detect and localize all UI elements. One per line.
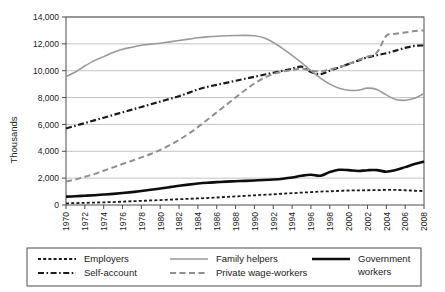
legend-item-label[interactable]: Government (358, 253, 411, 264)
legend-item-label[interactable]: Self-account (84, 267, 137, 278)
y-axis-title: Thousands (8, 116, 19, 163)
x-tick-label: 1980 (156, 212, 166, 231)
legend: EmployersSelf-accountFamily helpersPriva… (38, 253, 411, 278)
x-tick-label: 1984 (193, 212, 203, 231)
x-tick-label: 1978 (137, 212, 147, 231)
chart-container: Thousands 02,0004,0006,0008,00010,00012,… (0, 0, 445, 292)
y-tick-label: 10,000 (33, 66, 59, 76)
y-tick-label: 0 (54, 200, 59, 210)
y-axis-title-text: Thousands (8, 116, 19, 163)
y-tick-label: 4,000 (38, 146, 60, 156)
gridlines (66, 17, 424, 178)
y-tick-label: 8,000 (38, 93, 60, 103)
series-line (66, 190, 424, 203)
x-tick-label: 1970 (61, 212, 71, 231)
y-axis-ticks: 02,0004,0006,0008,00010,00012,00014,000 (33, 12, 66, 210)
x-tick-label: 1994 (287, 212, 297, 231)
x-tick-label: 2000 (344, 212, 354, 231)
x-tick-label: 2008 (419, 212, 429, 231)
plot-frame (66, 17, 424, 205)
legend-item-label[interactable]: Employers (84, 253, 129, 264)
x-tick-label: 2004 (382, 212, 392, 231)
x-tick-label: 1990 (250, 212, 260, 231)
x-tick-label: 1976 (118, 212, 128, 231)
x-tick-label: 1982 (174, 212, 184, 231)
x-tick-label: 1972 (80, 212, 90, 231)
y-tick-label: 14,000 (33, 12, 59, 22)
legend-item-label[interactable]: workers (357, 266, 392, 277)
y-tick-label: 12,000 (33, 39, 59, 49)
series-line (66, 162, 424, 197)
x-tick-label: 1986 (212, 212, 222, 231)
x-tick-label: 1998 (325, 212, 335, 231)
x-tick-label: 1996 (306, 212, 316, 231)
series-line (66, 30, 424, 181)
legend-item-label[interactable]: Family helpers (216, 253, 278, 264)
x-tick-label: 2002 (363, 212, 373, 231)
line-chart: Thousands 02,0004,0006,0008,00010,00012,… (0, 0, 445, 292)
y-tick-label: 2,000 (38, 173, 60, 183)
y-tick-label: 6,000 (38, 120, 60, 130)
x-tick-label: 1988 (231, 212, 241, 231)
series-line (66, 45, 424, 128)
data-series-group (66, 30, 424, 203)
legend-item-label[interactable]: Private wage-workers (216, 267, 308, 278)
x-tick-label: 1992 (269, 212, 279, 231)
x-axis-ticks: 1970197219741976197819801982198419861988… (61, 205, 429, 231)
x-tick-label: 1974 (99, 212, 109, 231)
x-tick-label: 2006 (400, 212, 410, 231)
